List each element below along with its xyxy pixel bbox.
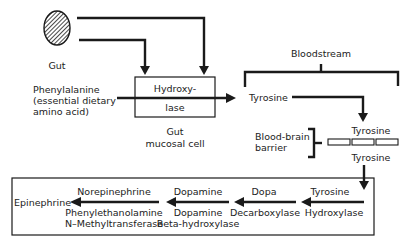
barrier-cell-2: [352, 139, 374, 145]
enzyme-dbh-line2: Beta-hydroxylase: [157, 218, 240, 229]
phenylalanine-label: Phenylalanine: [33, 84, 100, 95]
gut-label: Gut: [48, 60, 65, 71]
hydroxylase-label-1: Hydroxy-: [154, 83, 197, 94]
arrowhead: [301, 197, 311, 207]
enzyme-pnmt-line2: N–Methyltransferase: [65, 218, 163, 229]
product-dopa: Dopa: [252, 186, 277, 197]
gut-arrow-inner: [79, 40, 145, 68]
product-norepinephrine: Norepinephrine: [77, 186, 151, 197]
enzyme-pnmt-line1: Phenylethanolamine: [65, 207, 162, 218]
arrowhead: [140, 66, 150, 75]
arrowhead: [359, 181, 369, 190]
barrier-cell-3: [376, 139, 398, 145]
enzyme-dbh-line1: Dopamine: [174, 207, 223, 218]
arrowhead: [358, 113, 368, 122]
tyrosine-to-barrier-arrow: [292, 97, 363, 115]
tyrosine-below-barrier-label: Tyrosine: [351, 152, 391, 163]
phenylalanine-note-line2: amino acid): [33, 106, 89, 117]
product-epinephrine: Epinephrine: [14, 197, 71, 208]
bloodstream-bracket: [245, 72, 398, 87]
gut-mucosal-label-1: Gut: [166, 126, 183, 137]
tyrosine-bloodstream-label: Tyrosine: [248, 92, 288, 103]
bbb-label-2: barrier: [255, 142, 287, 153]
arrowhead: [166, 197, 176, 207]
gut-icon: [44, 11, 70, 45]
product-tyrosine: Tyrosine: [310, 186, 350, 197]
enzyme-tyrosine-hydroxylase: Hydroxylase: [305, 207, 364, 218]
arrowhead: [234, 197, 244, 207]
tyrosine-above-barrier-label: Tyrosine: [351, 125, 391, 136]
arrowhead: [70, 197, 81, 207]
enzyme-dopa-decarboxylase: Decarboxylase: [230, 207, 300, 218]
catecholamine-synthesis-diagram: Gut Phenylalanine (essential dietary ami…: [0, 0, 415, 247]
product-dopamine: Dopamine: [174, 186, 223, 197]
arrowhead: [226, 93, 236, 103]
bloodstream-label: Bloodstream: [291, 48, 351, 59]
phenylalanine-note-line1: (essential dietary: [33, 95, 116, 106]
hydroxylase-label-2: lase: [165, 102, 184, 113]
gut-mucosal-label-2: mucosal cell: [145, 138, 204, 149]
bbb-label-1: Blood-brain: [255, 131, 310, 142]
gut-arrow-outer: [77, 18, 204, 68]
arrowhead: [199, 66, 209, 75]
barrier-cell-1: [328, 139, 350, 145]
